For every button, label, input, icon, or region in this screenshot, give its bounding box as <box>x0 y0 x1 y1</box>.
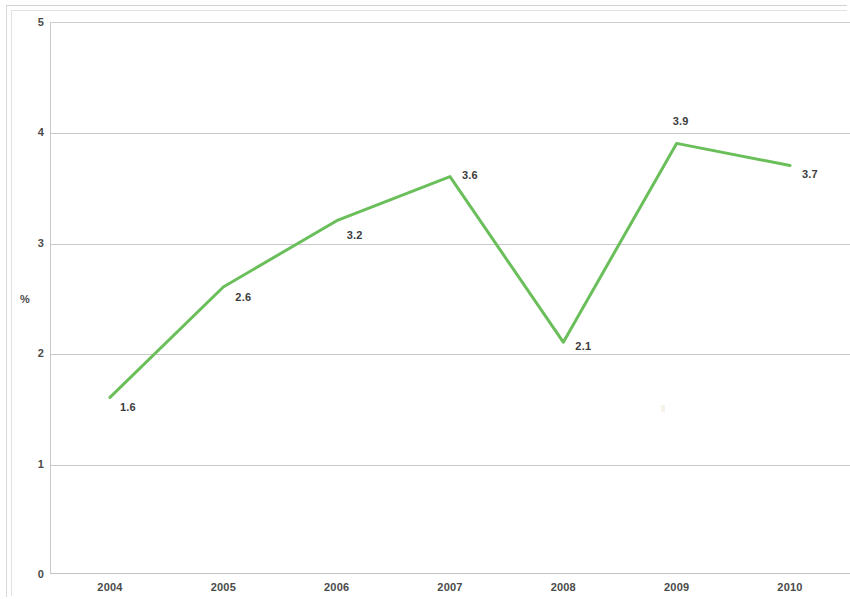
plot-area <box>50 22 850 574</box>
y-tick-label-4: 4 <box>10 126 44 138</box>
data-label-2005: 2.6 <box>235 291 251 303</box>
y-tick-label-2: 2 <box>10 347 44 359</box>
data-label-2010: 3.7 <box>802 168 818 180</box>
data-label-2009: 3.9 <box>673 115 689 127</box>
x-tick-label-2004: 2004 <box>97 581 122 593</box>
x-tick-label-2009: 2009 <box>664 581 689 593</box>
gridline-3 <box>51 244 850 245</box>
data-label-2004: 1.6 <box>120 401 136 413</box>
gridline-2 <box>51 354 850 355</box>
x-tick-label-2008: 2008 <box>551 581 576 593</box>
y-tick-label-0: 0 <box>10 568 44 580</box>
line-chart: 543210 % 2004200520062007200820092010 1.… <box>0 0 850 599</box>
y-axis-title: % <box>20 293 30 305</box>
data-label-2007: 3.6 <box>462 169 478 181</box>
y-tick-label-1: 1 <box>10 458 44 470</box>
data-label-2006: 3.2 <box>347 229 363 241</box>
data-label-2008: 2.1 <box>575 340 591 352</box>
x-tick-label-2006: 2006 <box>324 581 349 593</box>
scan-artifact-speck <box>661 405 665 412</box>
x-tick-label-2005: 2005 <box>211 581 236 593</box>
x-axis-tick-labels: 2004200520062007200820092010 <box>50 581 850 599</box>
gridline-4 <box>51 133 850 134</box>
y-tick-label-3: 3 <box>10 237 44 249</box>
y-tick-label-5: 5 <box>10 16 44 28</box>
gridline-1 <box>51 465 850 466</box>
x-tick-label-2010: 2010 <box>777 581 802 593</box>
x-tick-label-2007: 2007 <box>437 581 462 593</box>
